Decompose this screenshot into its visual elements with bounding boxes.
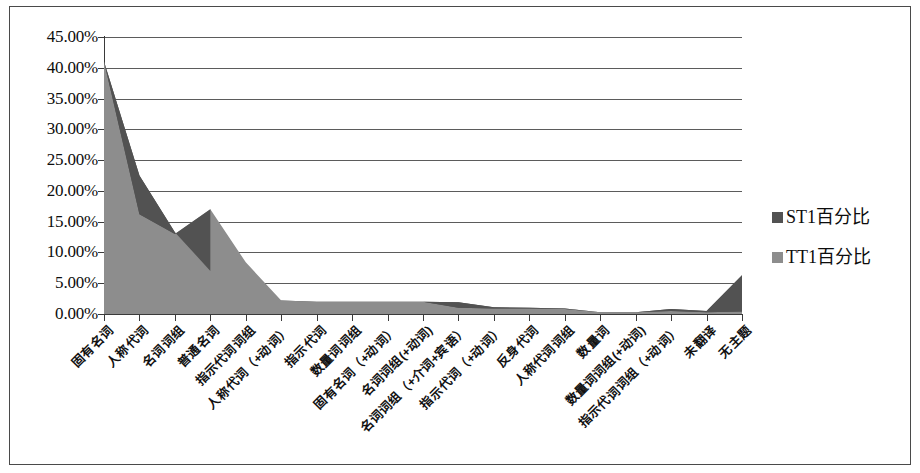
- y-axis-tick-label: 5.00%: [6, 274, 98, 291]
- y-axis-tick-label: 30.00%: [6, 120, 98, 137]
- x-axis-tick-mark: [352, 315, 353, 321]
- area-series-group: [104, 37, 742, 314]
- chart-figure: 45.00%40.00%35.00%30.00%25.00%20.00%15.0…: [0, 0, 920, 473]
- y-axis-tick-label: 15.00%: [6, 213, 98, 230]
- chart-legend: ST1百分比TT1百分比: [772, 207, 912, 287]
- x-axis-tick-mark: [529, 315, 530, 321]
- x-axis-tick-mark: [423, 315, 424, 321]
- x-axis-tick-mark: [281, 315, 282, 321]
- x-axis-tick-label: 未翻译: [682, 324, 719, 361]
- x-axis-tick-label: 无主题: [717, 324, 754, 361]
- x-axis-tick-mark: [175, 315, 176, 321]
- x-axis-tick-mark: [388, 315, 389, 321]
- y-axis-tick-label: 45.00%: [6, 28, 98, 45]
- y-axis-tick-label: 25.00%: [6, 151, 98, 168]
- legend-item[interactable]: ST1百分比: [772, 207, 912, 227]
- legend-swatch-icon: [772, 212, 783, 223]
- y-axis-tick-label: 10.00%: [6, 243, 98, 260]
- y-axis-labels: 45.00%40.00%35.00%30.00%25.00%20.00%15.0…: [0, 0, 98, 473]
- y-axis-tick-label: 20.00%: [6, 182, 98, 199]
- y-axis-tick-label: 40.00%: [6, 59, 98, 76]
- x-axis-tick-mark: [317, 315, 318, 321]
- x-axis-tick-mark: [494, 315, 495, 321]
- x-axis-tick-mark: [210, 315, 211, 321]
- x-axis-tick-mark: [636, 315, 637, 321]
- y-axis-tick-label: 35.00%: [6, 90, 98, 107]
- x-axis-tick-mark: [707, 315, 708, 321]
- legend-item[interactable]: TT1百分比: [772, 247, 912, 267]
- x-axis-tick-mark: [671, 315, 672, 321]
- y-axis-tick-label: 0.00%: [6, 305, 98, 322]
- x-axis-tick-mark: [565, 315, 566, 321]
- x-axis-tick-mark: [104, 315, 105, 321]
- legend-label: TT1百分比: [786, 247, 871, 267]
- plot-area: [104, 37, 742, 314]
- x-axis-tick-mark: [139, 315, 140, 321]
- x-axis-tick-mark: [600, 315, 601, 321]
- x-axis-tick-mark: [246, 315, 247, 321]
- x-axis-tick-mark: [742, 315, 743, 321]
- x-axis-tick-mark: [458, 315, 459, 321]
- legend-label: ST1百分比: [786, 207, 870, 227]
- legend-swatch-icon: [772, 252, 783, 263]
- area-series-tt1: [104, 62, 742, 314]
